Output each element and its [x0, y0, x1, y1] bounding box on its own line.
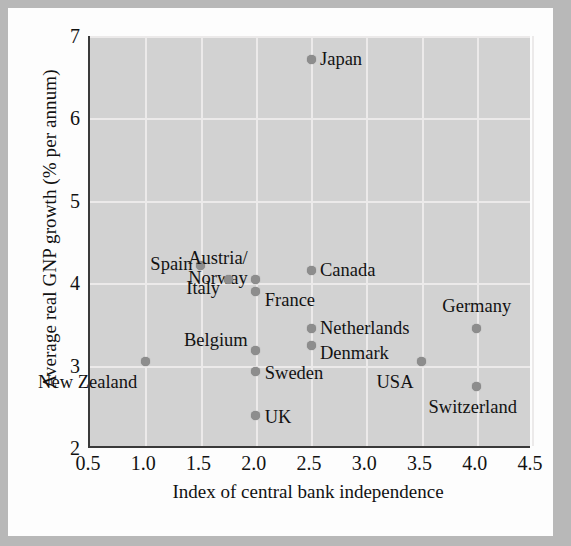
gridline-horizontal [90, 118, 530, 120]
gridline-vertical [256, 36, 258, 446]
gridline-horizontal [90, 201, 530, 203]
gridline-vertical [422, 36, 424, 446]
data-point [417, 357, 426, 366]
x-tick-label: 2.0 [241, 452, 266, 475]
point-label: Netherlands [320, 319, 409, 339]
data-point [251, 411, 260, 420]
y-tick-label: 2 [70, 437, 80, 460]
x-tick-label: 3.0 [352, 452, 377, 475]
point-label: New Zealand [38, 374, 137, 394]
plot-area: JapanSpainAustria/NorwayItalyCanadaFranc… [88, 36, 530, 448]
x-tick-label: 3.5 [407, 452, 432, 475]
point-label: France [265, 292, 315, 312]
x-tick-label: 2.5 [297, 452, 322, 475]
gridline-horizontal [90, 283, 530, 285]
x-tick-label: 4.0 [462, 452, 487, 475]
data-point [251, 275, 260, 284]
figure-page: Average real GNP growth (% per annum) In… [0, 0, 571, 546]
x-tick-label: 1.0 [131, 452, 156, 475]
point-label: USA [376, 374, 413, 394]
data-point [307, 266, 316, 275]
point-label: Canada [320, 261, 375, 281]
x-tick-label: 1.5 [186, 452, 211, 475]
point-label: Switzerland [429, 398, 517, 418]
paper-background: Average real GNP growth (% per annum) In… [8, 8, 553, 536]
data-point [307, 341, 316, 350]
data-point [251, 346, 260, 355]
data-point [251, 367, 260, 376]
gridline-vertical [145, 36, 147, 446]
y-tick-label: 3 [70, 354, 80, 377]
gridline-vertical [366, 36, 368, 446]
point-label: Sweden [265, 365, 324, 385]
y-tick-label: 6 [70, 107, 80, 130]
point-label: Italy [186, 279, 220, 299]
data-point [472, 382, 481, 391]
point-label: UK [265, 408, 292, 428]
point-label: Spain [150, 255, 192, 275]
data-point [141, 357, 150, 366]
data-point [307, 55, 316, 64]
data-point [251, 287, 260, 296]
gridline-vertical [532, 36, 534, 446]
x-tick-label: 4.5 [518, 452, 543, 475]
y-tick-label: 5 [70, 189, 80, 212]
gridline-vertical [201, 36, 203, 446]
data-point [224, 275, 233, 284]
x-axis-label: Index of central bank independence [88, 481, 528, 503]
y-tick-label: 4 [70, 272, 80, 295]
point-label: Germany [442, 297, 511, 317]
data-point [307, 324, 316, 333]
point-label: Japan [320, 50, 362, 70]
y-tick-label: 7 [70, 25, 80, 48]
point-label: Denmark [320, 344, 389, 364]
point-label: Belgium [184, 331, 248, 351]
data-point [472, 324, 481, 333]
scatter-chart: Average real GNP growth (% per annum) In… [8, 8, 553, 536]
gridline-horizontal [90, 36, 530, 38]
gridline-vertical [311, 36, 313, 446]
